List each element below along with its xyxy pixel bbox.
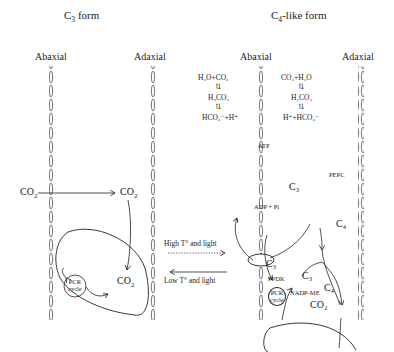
c4-c3-metabolite: C₃ bbox=[289, 182, 299, 192]
c4-ppdk-label: PPDK bbox=[268, 276, 285, 283]
c3-pcr-cycle: PCRcycle bbox=[68, 279, 82, 292]
c4-panel-title: C4-like form bbox=[271, 10, 326, 21]
c4-co2-chloroplast: CO₂ bbox=[310, 300, 327, 310]
c4-title-rest: -like form bbox=[282, 9, 326, 21]
c3-title-rest: form bbox=[75, 9, 99, 21]
c4-c4-metabolite: C₄ bbox=[336, 219, 346, 229]
c4-right-eq-arrow1: ⇅ bbox=[298, 83, 304, 91]
c4-left-eq3: HCO₃⁻+H⁺ bbox=[202, 114, 238, 122]
c4-abaxial-epidermis bbox=[257, 66, 263, 320]
c4-c3-chloroplast-left: C₃ bbox=[266, 259, 276, 269]
reverse-transition-label: Low T° and light bbox=[164, 277, 215, 285]
c3-pcr-line2: cycle bbox=[68, 286, 82, 293]
c3-co2-inside-sub: 2 bbox=[134, 192, 138, 200]
c4-right-eq1: CO₂+H₂O bbox=[281, 74, 312, 82]
c3-co2-inside: CO2 bbox=[120, 187, 137, 197]
c4-c4-chloroplast: C₄ bbox=[324, 283, 334, 293]
c4-pepc-label: PEPC bbox=[329, 172, 345, 179]
c3-co2-outside-sub: 2 bbox=[34, 192, 38, 200]
c3-co2-inside-text: CO bbox=[120, 186, 134, 197]
c4-nadp-me-label: NADP-ME bbox=[290, 290, 320, 297]
c4-left-eq-arrow2: ⇅ bbox=[215, 103, 221, 111]
c4-left-eq-arrow1: ⇅ bbox=[215, 83, 221, 91]
c4-c3-chloroplast-mid: C₃ bbox=[302, 271, 312, 281]
c4-right-eq2: H₂CO₃ bbox=[291, 94, 312, 102]
c3-co2-chloroplast: CO2 bbox=[117, 276, 134, 286]
c3-abaxial-label: Abaxial bbox=[35, 52, 67, 62]
c4-pcr-line2: cycle bbox=[270, 297, 284, 304]
c3-co2-outside-text: CO bbox=[20, 186, 34, 197]
c4-right-eq3: H⁺+HCO₃⁻ bbox=[283, 114, 319, 122]
forward-transition-label: High T° and light bbox=[164, 240, 217, 248]
c4-adp-label: ADP + Pi bbox=[254, 204, 279, 211]
c3-c4-diagram: C3 form Abaxial Adaxial CO2 CO2 CO2 PCRc… bbox=[0, 0, 394, 352]
c4-right-eq-arrow2: ⇅ bbox=[298, 103, 304, 111]
c4-atp-label: ATP bbox=[258, 143, 270, 150]
c3-co2-chloroplast-text: CO bbox=[117, 275, 131, 286]
c3-co2-chloroplast-sub: 2 bbox=[131, 281, 135, 289]
c3-adaxial-epidermis bbox=[149, 66, 155, 320]
c4-adaxial-label: Adaxial bbox=[342, 52, 374, 62]
c4-adaxial-epidermis bbox=[358, 66, 364, 320]
c4-pcr-cycle: PCRcycle bbox=[268, 287, 286, 306]
c4-left-eq1: H₂O+CO₂ bbox=[198, 74, 229, 82]
c3-co2-outside: CO2 bbox=[20, 187, 37, 197]
c3-panel-title: C3 form bbox=[64, 10, 99, 21]
c4-left-eq2: H₂CO₃ bbox=[208, 94, 229, 102]
c3-adaxial-label: Adaxial bbox=[134, 52, 166, 62]
c4-abaxial-label: Abaxial bbox=[240, 52, 272, 62]
